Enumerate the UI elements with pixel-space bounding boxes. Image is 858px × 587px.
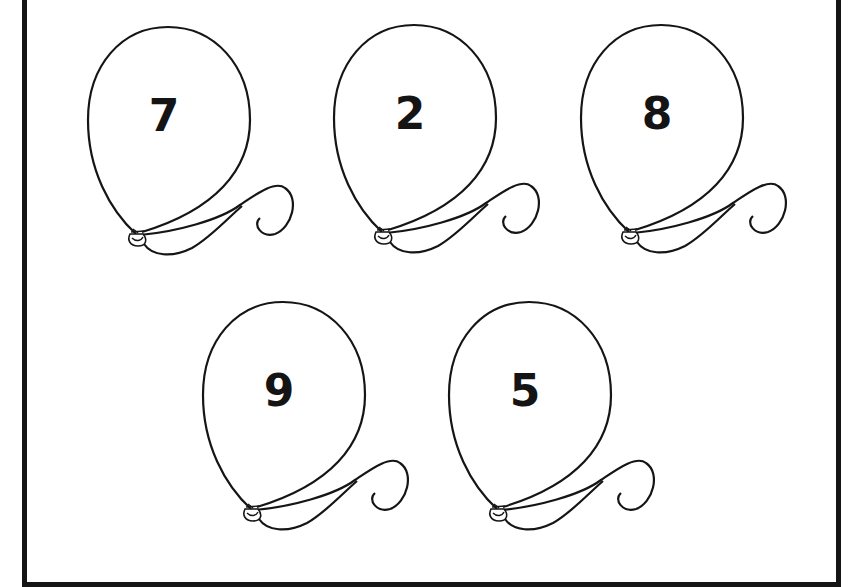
balloon-icon xyxy=(195,295,410,540)
balloon-icon xyxy=(441,295,656,540)
balloon-number: 9 xyxy=(239,367,319,415)
balloon-icon xyxy=(80,20,295,265)
balloon-icon xyxy=(326,18,541,263)
balloon: 9 xyxy=(195,295,410,540)
balloon: 8 xyxy=(573,18,788,263)
balloon-number: 2 xyxy=(370,90,450,138)
balloon-number: 8 xyxy=(617,90,697,138)
balloon-icon xyxy=(573,18,788,263)
balloon: 5 xyxy=(441,295,656,540)
balloon-number: 5 xyxy=(485,367,565,415)
balloon: 7 xyxy=(80,20,295,265)
balloon: 2 xyxy=(326,18,541,263)
balloon-number: 7 xyxy=(124,92,204,140)
